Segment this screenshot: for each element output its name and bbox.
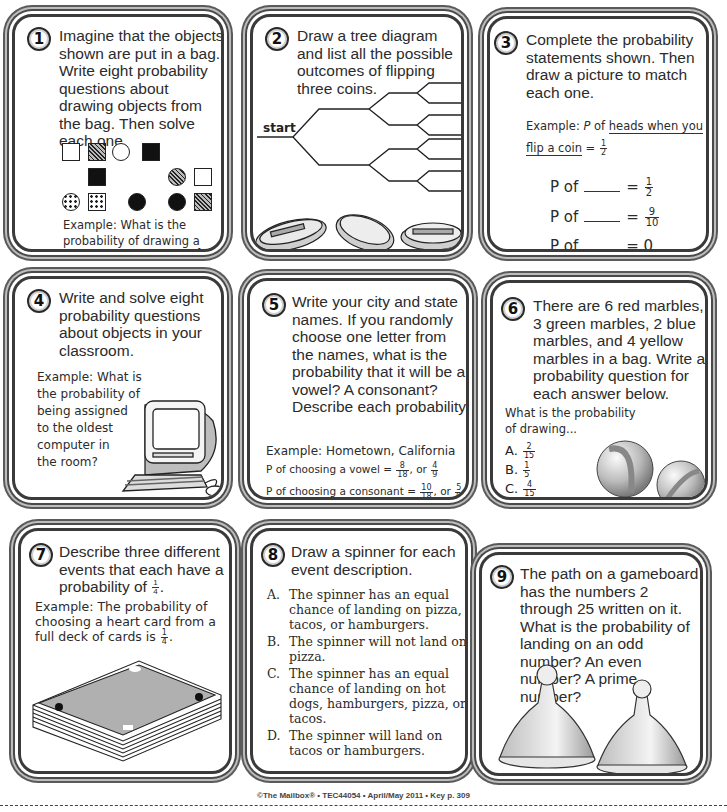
tree-start-label: start: [263, 121, 296, 135]
card-number-badge: 5: [262, 293, 286, 317]
shape-square-dotted: [88, 193, 106, 211]
shape-circle-striped: [168, 168, 186, 186]
task-card-2: 2 Draw a tree diagram and list all the p…: [250, 14, 464, 252]
task-card-5: 5 Write your city and state names. If yo…: [247, 278, 469, 500]
deck-of-cards-illustration: [27, 655, 227, 765]
card-number-badge: 7: [29, 543, 53, 567]
event-description-list: A.The spinner has an equal chance of lan…: [267, 587, 467, 758]
task-card-9: 9 The path on a gameboard has the number…: [479, 552, 703, 776]
answer-item: A. 215: [505, 441, 537, 460]
card-example: Example: The probability of choosing a h…: [35, 599, 231, 646]
statement-3: P of= 0: [550, 237, 653, 252]
shape-square-solid: [88, 168, 106, 186]
copyright-footer: ©The Mailbox® • TEC44054 • April/May 201…: [0, 791, 727, 800]
card-prompt: There are 6 red marbles, 3 green marbles…: [533, 297, 707, 402]
answer-item: D. 24: [505, 498, 537, 500]
answer-blank: [584, 221, 620, 222]
card-number-badge: 6: [501, 297, 525, 321]
card-prompt: Describe three different events that eac…: [59, 543, 231, 596]
coins-illustration: [253, 207, 464, 252]
card-example: Example: What is the probability of draw…: [63, 217, 224, 252]
card-example: Example: Hometown, California: [266, 443, 466, 459]
shape-circle-solid: [168, 193, 186, 211]
shape-square-empty: [62, 143, 80, 161]
shape-square-solid: [142, 143, 160, 161]
game-pawns-illustration: [492, 663, 692, 773]
card-number-badge: 4: [27, 289, 51, 313]
answer-item: C. 415: [505, 479, 537, 498]
shape-square-striped: [88, 143, 106, 161]
answer-blank: [584, 250, 620, 251]
shape-circle-solid: [128, 193, 146, 211]
task-card-4: 4 Write and solve eight probability ques…: [12, 276, 224, 500]
marbles-illustration: [589, 433, 708, 500]
card-prompt: Write your city and state names. If you …: [292, 293, 469, 416]
card-number-badge: 2: [265, 27, 289, 51]
card-prompt: Draw a spinner for each event descriptio…: [291, 543, 465, 578]
event-item: B.The spinner will not land on pizza.: [267, 634, 467, 664]
event-item: D.The spinner will land on tacos or hamb…: [267, 728, 467, 758]
statement-1: P of= 12: [550, 177, 654, 198]
card-number-badge: 8: [261, 543, 285, 567]
card-number-badge: 9: [490, 565, 514, 589]
card-prompt: Write and solve eight probability questi…: [59, 289, 224, 359]
card-prompt: Complete the probability statements show…: [526, 31, 706, 101]
answer-item: B. 15: [505, 460, 537, 479]
shape-circle-empty: [112, 143, 130, 161]
computer-illustration: [105, 391, 224, 500]
event-item: C.The spinner has an equal chance of lan…: [267, 666, 467, 726]
vowel-probability-line: P of choosing a vowel = 818, or 49: [266, 461, 466, 479]
example-answer-fraction: 112: [194, 249, 206, 252]
task-card-7: 7 Describe three different events that e…: [18, 528, 232, 774]
consonant-probability-line: P of choosing a consonant = 1018, or 59: [266, 483, 469, 500]
shape-circle-dotted: [62, 193, 80, 211]
statement-2: P of= 910: [550, 207, 660, 228]
tree-diagram: [253, 79, 464, 219]
card-number-badge: 3: [494, 31, 518, 55]
event-item: A.The spinner has an equal chance of lan…: [267, 587, 467, 632]
task-card-8: 8 Draw a spinner for each event descript…: [250, 528, 468, 774]
answer-blank: [584, 191, 620, 192]
shape-square-striped: [194, 193, 212, 211]
task-card-3: 3 Complete the probability statements sh…: [487, 16, 709, 252]
answer-list: A. 215 B. 15 C. 415 D. 24: [505, 441, 537, 500]
shape-square-empty: [194, 168, 212, 186]
cut-line: [0, 805, 727, 806]
card-example: Example: P of heads when you flip a coin…: [526, 115, 706, 159]
task-card-6: 6 There are 6 red marbles, 3 green marbl…: [490, 280, 708, 500]
example-text: Example: What is the probability of draw…: [63, 218, 200, 252]
shapes-collection: [15, 17, 221, 249]
task-card-1: 1 Imagine that the objects shown are put…: [12, 14, 224, 252]
